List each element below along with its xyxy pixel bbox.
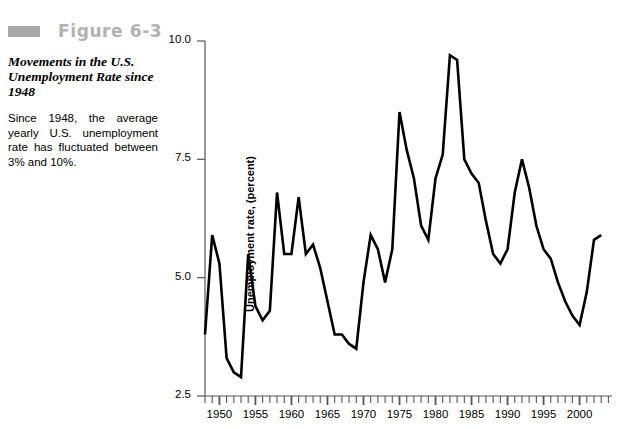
- x-tick-label: 1950: [199, 408, 239, 420]
- unemployment-series-line: [205, 55, 601, 377]
- x-tick-label: 1960: [271, 408, 311, 420]
- x-tick-label: 1995: [524, 408, 564, 420]
- x-tick-label: 1955: [235, 408, 275, 420]
- unemployment-line-chart: Unemployment rate, (percent) 2.55.07.510…: [0, 0, 627, 429]
- x-tick-label: 2000: [560, 408, 600, 420]
- y-tick-label: 10.0: [157, 33, 191, 45]
- figure-page: Figure 6-3 Movements in the U.S. Unemplo…: [0, 0, 627, 429]
- x-tick-label: 1970: [343, 408, 383, 420]
- y-tick-label: 7.5: [157, 151, 191, 163]
- x-tick-label: 1980: [416, 408, 456, 420]
- plot-area: [0, 0, 627, 429]
- x-tick-label: 1975: [379, 408, 419, 420]
- x-tick-label: 1990: [488, 408, 528, 420]
- y-tick-label: 5.0: [157, 270, 191, 282]
- y-tick-label: 2.5: [157, 388, 191, 400]
- x-tick-label: 1985: [452, 408, 492, 420]
- x-tick-label: 1965: [307, 408, 347, 420]
